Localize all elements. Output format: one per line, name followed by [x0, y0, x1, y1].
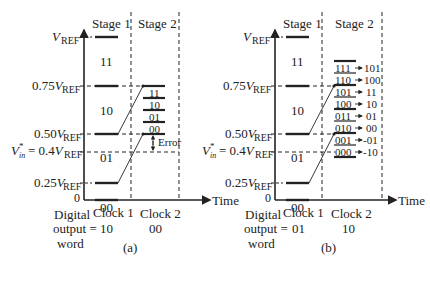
svg-text:-10: -10: [363, 146, 378, 158]
stage1-code: 01: [291, 150, 304, 165]
stage1-code: 01: [100, 150, 113, 165]
svg-text:0: 0: [265, 191, 271, 205]
pipeline-adc-diagram: Stage 1 Stage 2 V REF 0.75V REF 0.50V RE…: [0, 0, 430, 284]
clock2-label: Clock 2: [331, 206, 372, 221]
stage2-code: 01: [149, 111, 160, 123]
svg-text:= 0.4V: = 0.4V: [219, 143, 256, 158]
svg-text:100: 100: [364, 74, 381, 86]
stage1-label: Stage 1: [92, 16, 131, 31]
stage1-code: 11: [100, 54, 113, 69]
svg-text:00: 00: [366, 122, 378, 134]
svg-text:000: 000: [335, 146, 352, 158]
svg-text:101: 101: [364, 62, 381, 74]
svg-text:REF: REF: [255, 149, 274, 160]
svg-text:REF: REF: [252, 35, 271, 46]
svg-text:101: 101: [335, 86, 352, 98]
stage2-label: Stage 2: [335, 16, 374, 31]
output-label: output =: [53, 221, 97, 236]
svg-text:REF: REF: [61, 35, 80, 46]
clock1-label: Clock 1: [283, 205, 324, 220]
clock2-label: Clock 2: [140, 206, 181, 221]
svg-text:0.50V: 0.50V: [34, 126, 67, 141]
svg-text:0.50V: 0.50V: [225, 126, 258, 141]
svg-text:REF: REF: [63, 132, 82, 143]
svg-text:10: 10: [366, 98, 378, 110]
svg-text:111: 111: [335, 62, 351, 74]
y-tick-075: 0.75V REF: [32, 78, 81, 95]
panel-a: Stage 1 Stage 2 V REF 0.75V REF 0.50V RE…: [11, 12, 239, 255]
svg-text:0.25V: 0.25V: [225, 175, 258, 190]
svg-text:100: 100: [335, 98, 352, 110]
stage1-code: 10: [291, 103, 304, 118]
stage2-label: Stage 2: [138, 16, 177, 31]
time-label: Time: [398, 193, 425, 208]
svg-text:0.75V: 0.75V: [223, 78, 256, 93]
svg-text:*: *: [19, 141, 24, 151]
time-label: Time: [212, 193, 239, 208]
caption-a: (a): [123, 240, 137, 255]
y-ticks: V REF 0.75V REF 0.50V REF V in * = 0.4V …: [202, 29, 274, 205]
output2-value: 10: [342, 221, 355, 236]
svg-text:-01: -01: [363, 134, 378, 146]
stage2-code: 11: [149, 87, 160, 99]
svg-text:010: 010: [335, 122, 352, 134]
word-label: word: [57, 236, 84, 251]
svg-text:in: in: [210, 151, 216, 160]
clock1-label: Clock 1: [93, 205, 134, 220]
svg-text:001: 001: [335, 134, 352, 146]
digital-label: Digital: [245, 207, 281, 222]
output1-value: 01: [292, 221, 305, 236]
svg-text:= 0.4V: = 0.4V: [28, 143, 65, 158]
svg-text:110: 110: [335, 74, 352, 86]
stage2-codes: 111 110 101 100 011 010 001 000 101 100 …: [334, 61, 381, 158]
svg-text:0.75V: 0.75V: [32, 78, 65, 93]
y-tick-vin: V in * = 0.4V REF: [11, 141, 83, 160]
output-label: output =: [244, 221, 288, 236]
y-tick-050: 0.50V REF: [34, 126, 82, 143]
svg-text:11: 11: [366, 86, 377, 98]
stage1-code: 10: [100, 103, 113, 118]
panel-b: Stage 1 Stage 2 V REF 0.75V REF 0.50V RE…: [202, 12, 425, 255]
stage1-code: 11: [291, 54, 304, 69]
svg-text:REF: REF: [254, 132, 273, 143]
output2-value: 00: [149, 221, 162, 236]
output1-value: 10: [100, 221, 113, 236]
svg-text:011: 011: [335, 110, 351, 122]
svg-text:REF: REF: [253, 84, 272, 95]
svg-text:in: in: [19, 151, 25, 160]
digital-label: Digital: [54, 207, 90, 222]
y-tick-vref: V REF: [52, 29, 92, 46]
stage2-code: 10: [149, 99, 161, 111]
svg-text:REF: REF: [62, 84, 81, 95]
error-label: Error: [158, 136, 182, 148]
svg-text:0.25V: 0.25V: [34, 175, 67, 190]
caption-b: (b): [321, 240, 336, 255]
svg-text:*: *: [210, 141, 215, 151]
svg-text:REF: REF: [64, 149, 83, 160]
svg-text:01: 01: [366, 110, 377, 122]
y-tick-025: 0.25V REF: [34, 175, 82, 192]
word-label: word: [248, 236, 275, 251]
y-zero: 0: [74, 191, 80, 205]
stage2-code: 00: [149, 123, 161, 135]
stage1-label: Stage 1: [283, 16, 322, 31]
